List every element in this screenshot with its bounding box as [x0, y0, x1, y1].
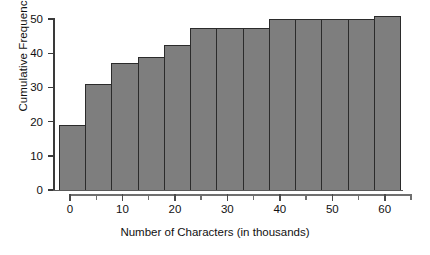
- x-tick-minor: [96, 194, 97, 200]
- y-tick-label: 20: [30, 116, 43, 128]
- x-tick-major: [384, 194, 386, 201]
- x-tick-label: 20: [169, 203, 182, 215]
- x-tick-label: 60: [378, 203, 391, 215]
- x-tick-label: 0: [67, 203, 73, 215]
- x-tick-major: [174, 194, 176, 201]
- x-tick-minor: [200, 194, 201, 200]
- y-axis-title: Cumulative Frequency: [17, 0, 29, 138]
- x-tick-major: [279, 194, 281, 201]
- bar: [321, 19, 349, 190]
- y-tick-label: 10: [30, 150, 43, 162]
- y-axis-line: [53, 18, 55, 191]
- y-tick: [48, 53, 53, 54]
- x-tick-minor: [253, 194, 254, 200]
- bar: [295, 19, 323, 190]
- cumulative-frequency-chart: Cumulative Frequency 01020304050 0102030…: [0, 0, 430, 255]
- y-tick-label: 50: [30, 13, 43, 25]
- x-tick-minor: [410, 194, 411, 200]
- bar: [138, 57, 166, 190]
- bar: [216, 28, 244, 190]
- x-tick-minor: [148, 194, 149, 200]
- plot-area: 01020304050: [59, 19, 400, 190]
- bar: [243, 28, 271, 190]
- bar: [85, 84, 113, 190]
- x-tick-label: 30: [221, 203, 234, 215]
- x-axis-baseline: [53, 190, 403, 192]
- bar: [59, 125, 87, 190]
- x-tick-major: [122, 194, 124, 201]
- x-tick-label: 50: [326, 203, 339, 215]
- x-tick-major: [332, 194, 334, 201]
- y-tick: [48, 121, 53, 122]
- x-tick-minor: [358, 194, 359, 200]
- bar: [269, 19, 297, 190]
- y-tick: [48, 189, 53, 190]
- x-tick-major: [69, 194, 71, 201]
- x-tick-label: 40: [273, 203, 286, 215]
- y-tick-label: 0: [37, 184, 43, 196]
- bar: [190, 28, 218, 190]
- y-tick-label: 40: [30, 47, 43, 59]
- x-tick-major: [227, 194, 229, 201]
- bar: [111, 63, 139, 190]
- x-tick-label: 10: [116, 203, 129, 215]
- x-axis-title: Number of Characters (in thousands): [0, 226, 430, 238]
- y-tick: [48, 18, 53, 19]
- y-tick: [48, 87, 53, 88]
- y-tick: [48, 155, 53, 156]
- bar: [164, 45, 192, 190]
- x-tick-minor: [305, 194, 306, 200]
- bar: [348, 19, 376, 190]
- y-tick-label: 30: [30, 81, 43, 93]
- bar: [374, 16, 402, 190]
